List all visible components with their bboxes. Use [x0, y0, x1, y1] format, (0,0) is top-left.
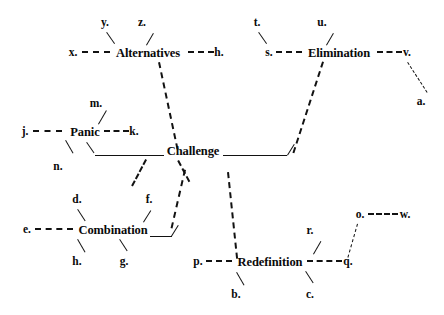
- node-alternatives: Alternatives: [116, 47, 180, 60]
- leaf-node-d: d.: [72, 194, 81, 206]
- edge-z-alternatives: [146, 33, 154, 46]
- edge-e-combination: [35, 228, 73, 232]
- edge-s-elimination: [276, 51, 302, 55]
- edge-p-redefinition: [206, 260, 232, 264]
- leaf-node-z: z.: [138, 17, 146, 29]
- leaf-node-a: a.: [417, 96, 426, 108]
- edge-o-w: [368, 213, 398, 217]
- edge-m-panic: [98, 110, 107, 124]
- leaf-node-r: r.: [307, 225, 314, 237]
- node-challenge: Challenge: [167, 145, 220, 158]
- edge-challenge-redefinition-2: [227, 172, 238, 259]
- leaf-node-w: w.: [400, 209, 411, 221]
- node-redefinition: Redefinition: [238, 256, 303, 269]
- leaf-node-o: o.: [356, 209, 365, 221]
- leaf-node-p: p.: [193, 256, 202, 268]
- leaf-node-e: e.: [23, 224, 31, 236]
- leaf-node-q: q.: [343, 256, 352, 268]
- edge-j-panic: [33, 130, 62, 134]
- node-elimination: Elimination: [308, 47, 370, 60]
- edge-combination-h: [77, 239, 85, 252]
- edge-elimination-challenge: [292, 61, 324, 153]
- leaf-node-h-bottom: h.: [72, 256, 81, 268]
- edge-v-a: [407, 62, 427, 93]
- edge-elimination-v: [377, 51, 402, 55]
- edge-u-elimination: [326, 33, 334, 46]
- leaf-node-v: v.: [403, 47, 411, 59]
- edge-panic-k: [104, 130, 129, 134]
- edge-combination-g: [119, 239, 127, 251]
- leaf-node-m: m.: [90, 98, 102, 110]
- leaf-node-f: f.: [146, 194, 153, 206]
- edge-f-combination: [143, 210, 151, 222]
- edge-redefinition-q: [307, 260, 342, 264]
- leaf-node-u: u.: [317, 17, 326, 29]
- leaf-node-g: g.: [120, 256, 129, 268]
- node-panic: Panic: [70, 126, 99, 139]
- edge-redefinition-c: [305, 271, 313, 283]
- edge-alternatives-h: [188, 51, 214, 55]
- edge-d-combination: [77, 209, 85, 221]
- edge-panic-challenge-rule: [95, 155, 164, 156]
- leaf-node-b: b.: [231, 289, 240, 301]
- node-combination: Combination: [78, 224, 147, 237]
- leaf-node-h-top: h.: [214, 47, 223, 59]
- edge-panic-n: [65, 140, 73, 153]
- leaf-node-t: t.: [254, 17, 261, 29]
- edge-alternatives-challenge: [158, 62, 178, 149]
- leaf-node-y: y.: [101, 17, 109, 29]
- edge-challenge-combination-2: [171, 170, 186, 229]
- edge-redefinition-b: [236, 272, 244, 285]
- edge-panic-challenge-elbow: [86, 142, 94, 153]
- leaf-node-n: n.: [53, 161, 62, 173]
- leaf-node-s: s.: [265, 47, 272, 59]
- edge-challenge-combination: [131, 159, 147, 186]
- edge-y-alternatives: [106, 32, 115, 44]
- leaf-node-x: x.: [69, 47, 78, 59]
- edge-combination-elbow-rule: [150, 236, 172, 237]
- edge-r-redefinition: [313, 241, 321, 254]
- edge-o-q: [347, 224, 358, 258]
- edge-t-elimination: [258, 32, 267, 44]
- diagram-canvas: y. z. x. h. Alternatives t. u. s. v. a. …: [0, 0, 444, 315]
- edge-challenge-right-rule: [223, 155, 287, 156]
- edge-x-alternatives: [82, 51, 110, 55]
- leaf-node-k: k.: [129, 126, 138, 138]
- leaf-node-c: c.: [306, 289, 314, 301]
- leaf-node-j: j.: [22, 126, 29, 138]
